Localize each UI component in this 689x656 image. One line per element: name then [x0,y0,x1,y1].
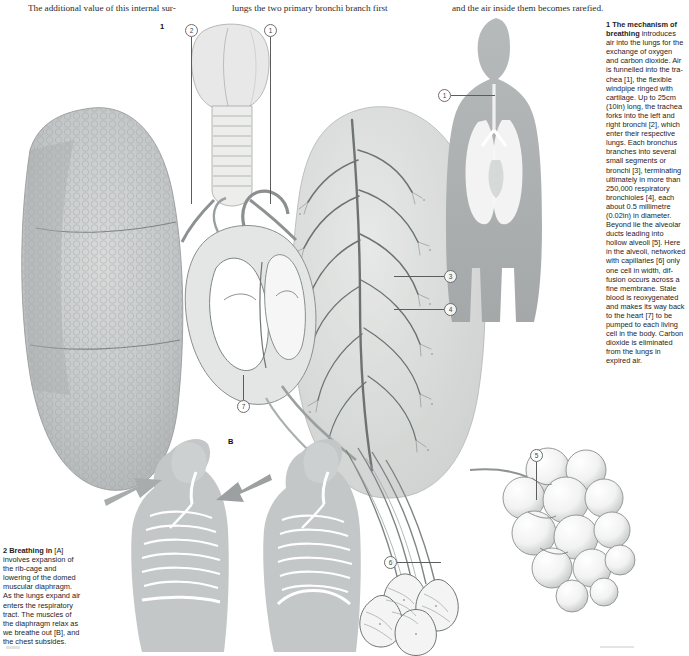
leader-line-callout-6 [397,562,441,563]
illustrated-encyclopedia-page: The additional value of this internal su… [0,0,689,656]
callout-label: 5 [535,452,539,459]
leader-line-callout-1-torso [451,95,495,96]
callout-6-capillaries[interactable]: 6 [384,556,397,569]
larynx-trachea [182,24,296,242]
callout-5-alveoli[interactable]: 5 [530,449,543,462]
callout-2-trachea-top[interactable]: 2 [185,24,198,37]
callout-4-bronchioles[interactable]: 4 [444,303,457,316]
respiratory-system-artwork [0,0,689,656]
callout-label: 7 [242,403,246,410]
callout-label: 1 [443,92,447,99]
callout-1-torso[interactable]: 1 [438,89,451,102]
alveolar-sac-cluster [470,448,635,612]
torso-figure [446,18,542,322]
leader-line-callout-4 [394,309,444,310]
leader-line-callout-3 [394,276,444,277]
left-lung-group [18,100,193,500]
callout-label: 4 [449,306,453,313]
callout-label: 2 [190,27,194,34]
callout-label: 1 [269,27,273,34]
leader-line-callout-2 [191,37,192,204]
callout-3-bronchi[interactable]: 3 [444,270,457,283]
callout-label: 6 [389,559,393,566]
callout-1-trachea-top[interactable]: 1 [264,24,277,37]
leader-line-callout-1-trachea [270,37,271,204]
callout-label: 3 [449,273,453,280]
callout-7-heart[interactable]: 7 [237,400,250,413]
leader-line-callout-7 [243,375,244,400]
leader-line-callout-5 [536,462,537,500]
